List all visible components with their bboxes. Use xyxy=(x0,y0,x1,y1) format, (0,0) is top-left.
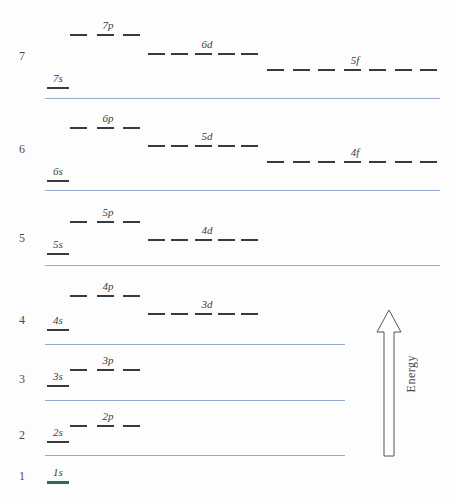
orbital-slot xyxy=(171,313,188,315)
shell-separator-line xyxy=(45,190,440,191)
shell-number-label: 7 xyxy=(14,50,30,62)
orbital-slot xyxy=(123,295,140,297)
orbital-slot xyxy=(148,53,165,55)
orbital-label-3s: 3s xyxy=(53,371,63,382)
shell-number-label: 6 xyxy=(14,143,30,155)
orbital-slot xyxy=(344,161,361,163)
orbital-slot xyxy=(47,385,69,387)
orbital-slot xyxy=(123,425,140,427)
orbital-slot xyxy=(70,34,87,36)
orbital-slot xyxy=(369,69,386,71)
orbital-slot xyxy=(171,53,188,55)
orbital-slot xyxy=(267,161,284,163)
orbital-slot xyxy=(123,221,140,223)
orbital-slot xyxy=(97,425,114,427)
orbital-slot xyxy=(171,239,188,241)
shell-number-label: 5 xyxy=(14,232,30,244)
orbital-slot xyxy=(267,69,284,71)
orbital-slot xyxy=(97,127,114,129)
orbital-slot xyxy=(47,253,69,255)
orbital-slot xyxy=(70,221,87,223)
orbital-slot-group xyxy=(0,0,455,3)
orbital-slot xyxy=(47,329,69,331)
orbital-label-1s: 1s xyxy=(53,467,63,478)
orbital-slot xyxy=(70,127,87,129)
orbital-slot xyxy=(218,53,235,55)
orbital-label-6d: 6d xyxy=(202,39,213,50)
orbital-label-4d: 4d xyxy=(202,225,213,236)
orbital-label-5f: 5f xyxy=(351,55,360,66)
orbital-slot xyxy=(420,161,437,163)
orbital-label-4f: 4f xyxy=(351,147,360,158)
orbital-slot xyxy=(241,53,258,55)
orbital-label-6p: 6p xyxy=(103,113,114,124)
orbital-slot xyxy=(148,145,165,147)
shell-separator-line xyxy=(45,344,345,345)
orbital-label-3p: 3p xyxy=(103,355,114,366)
orbital-slot xyxy=(241,313,258,315)
orbital-label-2s: 2s xyxy=(53,427,63,438)
orbital-label-3d: 3d xyxy=(202,299,213,310)
orbital-slot xyxy=(70,295,87,297)
orbital-slot xyxy=(123,369,140,371)
shell-number-label: 1 xyxy=(14,470,30,482)
orbital-label-5p: 5p xyxy=(103,207,114,218)
orbital-label-5s: 5s xyxy=(53,239,63,250)
orbital-label-7s: 7s xyxy=(53,73,63,84)
orbital-label-6s: 6s xyxy=(53,166,63,177)
shell-separator-line xyxy=(45,265,440,266)
shell-number-label: 3 xyxy=(14,373,30,385)
orbital-label-4s: 4s xyxy=(53,315,63,326)
orbital-label-2p: 2p xyxy=(103,411,114,422)
orbital-slot xyxy=(369,161,386,163)
orbital-label-4p: 4p xyxy=(103,281,114,292)
energy-axis-label: Energy xyxy=(404,355,419,392)
orbital-slot xyxy=(97,34,114,36)
orbital-slot xyxy=(47,180,69,182)
orbital-slot xyxy=(97,295,114,297)
orbital-slot xyxy=(344,69,361,71)
orbital-slot xyxy=(97,369,114,371)
orbital-slot xyxy=(318,69,335,71)
orbital-slot xyxy=(318,161,335,163)
orbital-slot xyxy=(47,481,69,484)
orbital-slot xyxy=(123,127,140,129)
orbital-slot xyxy=(148,239,165,241)
shell-number-label: 4 xyxy=(14,314,30,326)
orbital-slot xyxy=(293,69,310,71)
orbital-label-5d: 5d xyxy=(202,131,213,142)
orbital-label-7p: 7p xyxy=(103,20,114,31)
orbital-slot xyxy=(70,369,87,371)
orbital-slot xyxy=(293,161,310,163)
shell-separator-line xyxy=(45,400,345,401)
orbital-slot xyxy=(195,145,212,147)
shell-separator-line xyxy=(45,98,440,99)
orbital-slot xyxy=(195,53,212,55)
orbital-slot xyxy=(47,441,69,443)
orbital-slot xyxy=(420,69,437,71)
orbital-slot xyxy=(171,145,188,147)
energy-axis-arrow xyxy=(374,308,404,458)
orbital-slot xyxy=(218,239,235,241)
orbital-slot xyxy=(218,145,235,147)
orbital-slot xyxy=(97,221,114,223)
orbital-slot xyxy=(47,87,69,89)
orbital-slot xyxy=(218,313,235,315)
orbital-slot xyxy=(70,425,87,427)
orbital-slot xyxy=(395,161,412,163)
shell-separator-line xyxy=(45,455,345,456)
orbital-slot xyxy=(123,34,140,36)
orbital-1s: 1s xyxy=(0,0,455,3)
orbital-slot xyxy=(241,239,258,241)
shell-number-label: 2 xyxy=(14,429,30,441)
orbital-energy-diagram: 76543217p6d5f7s6p5d4f6s5p4d5s4p3d4s3p3s2… xyxy=(0,0,455,498)
orbital-slot xyxy=(241,145,258,147)
orbital-slot xyxy=(195,239,212,241)
orbital-slot xyxy=(148,313,165,315)
orbital-slot xyxy=(195,313,212,315)
orbital-slot xyxy=(395,69,412,71)
